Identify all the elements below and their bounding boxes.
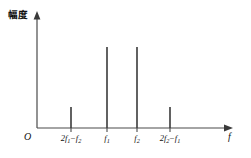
x-tick-label-3: f2 — [134, 134, 139, 143]
tick4-sub1: 2 — [166, 137, 169, 144]
tick1-base: 2f — [61, 133, 68, 143]
spectrum-plot — [0, 0, 251, 158]
y-axis-arrow-icon — [34, 11, 41, 20]
x-tick-label-4: 2f2−f1 — [160, 134, 181, 143]
tick4-base: 2f — [160, 133, 167, 143]
origin-label: O — [24, 132, 31, 142]
tick1-sub1: 1 — [67, 137, 70, 144]
y-axis-label: 幅度 — [8, 10, 28, 20]
x-tick-label-1: 2f1−f2 — [61, 134, 82, 143]
tick1-sub2: 2 — [78, 137, 81, 144]
x-axis-label: f — [228, 132, 231, 142]
x-tick-label-2: f1 — [104, 134, 109, 143]
tick4-sub2: 1 — [177, 137, 180, 144]
spectrum-figure: 幅度 O f 2f1−f2 f1 f2 2f2−f1 — [0, 0, 251, 158]
